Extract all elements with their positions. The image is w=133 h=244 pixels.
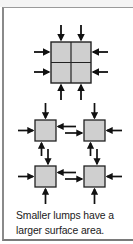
figure-caption: Smaller lumps have a larger surface area…: [16, 208, 133, 238]
small-lump-top-right: [84, 120, 105, 141]
small-lump-arrows: [18, 103, 122, 204]
caption-line-1: Smaller lumps have a: [16, 208, 133, 223]
small-lumps: [35, 120, 105, 187]
small-lump-top-left: [35, 120, 56, 141]
caption-line-2: larger surface area.: [16, 223, 133, 238]
small-lump-bottom-right: [84, 166, 105, 187]
small-lump-bottom-left: [35, 166, 56, 187]
large-lump: [51, 42, 91, 83]
